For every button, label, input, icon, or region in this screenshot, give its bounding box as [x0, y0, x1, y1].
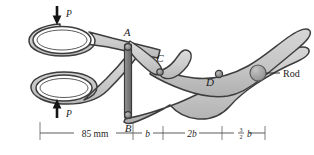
dimension-fraction-denominator: 2 [240, 134, 243, 140]
lower-handle-arm [31, 52, 136, 104]
pin-B [125, 112, 132, 119]
force-label-p-top: P [65, 9, 72, 19]
point-label-b: B [125, 122, 132, 134]
point-label-d: D [205, 76, 214, 88]
rod-label: Rod [283, 68, 300, 79]
dimension-label-three-halves-b: b [247, 129, 252, 139]
dimension-fraction-numerator: 3 [240, 127, 243, 133]
point-label-c: C [156, 52, 164, 64]
dimension-extension-lines [40, 122, 265, 140]
figure-canvas: A B C D P P Rod 85 mm b 2b 3 2 b [0, 0, 314, 155]
link-AB [125, 44, 132, 118]
dimension-label-85mm: 85 mm [82, 129, 109, 139]
point-label-a: A [123, 26, 131, 38]
pliers-figure: A B C D P P Rod 85 mm b 2b 3 2 b [0, 0, 314, 155]
force-label-p-bottom: P [65, 109, 72, 119]
pin-A [125, 44, 132, 51]
dimension-label-2b: 2b [187, 129, 197, 139]
force-arrow-p-top [53, 6, 62, 25]
pin-C [157, 69, 163, 75]
pin-D [215, 70, 222, 77]
dimension-label-b: b [145, 129, 150, 139]
rod-workpiece [250, 65, 266, 81]
